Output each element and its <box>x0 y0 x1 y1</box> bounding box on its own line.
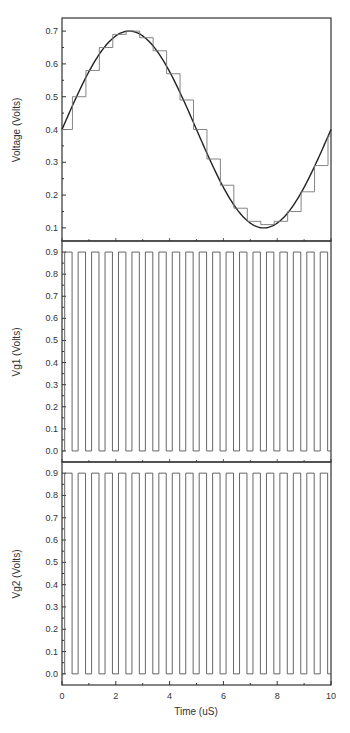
vg2-axis-label: Vg2 (Volts) <box>11 550 22 599</box>
figure: 0.10.20.30.40.50.60.7 0.00.10.20.30.40.5… <box>0 0 350 733</box>
y-tick-label: 0.0 <box>45 669 58 679</box>
y-tick-label: 0.8 <box>45 269 58 279</box>
y-tick-label: 0.3 <box>45 157 58 167</box>
y-tick-label: 0.1 <box>45 647 58 657</box>
voltage-panel: 0.10.20.30.40.50.60.7 <box>45 18 331 241</box>
y-tick-label: 0.1 <box>45 424 58 434</box>
y-tick-label: 0.4 <box>45 358 58 368</box>
y-tick-label: 0.3 <box>45 380 58 390</box>
y-tick-label: 0.6 <box>45 313 58 323</box>
vg2-plot-frame <box>62 462 331 685</box>
y-tick-label: 0.7 <box>45 513 58 523</box>
x-tick-label: 4 <box>167 691 172 701</box>
vg1-pulse-train <box>62 252 331 451</box>
x-tick-label: 10 <box>326 691 336 701</box>
time-axis-label: Time (uS) <box>174 706 218 717</box>
y-tick-label: 0.8 <box>45 490 58 500</box>
vg2-pulse-train <box>62 473 331 674</box>
y-tick-label: 0.2 <box>45 624 58 634</box>
y-tick-label: 0.6 <box>45 535 58 545</box>
x-tick-label: 2 <box>113 691 118 701</box>
y-tick-label: 0.5 <box>45 92 58 102</box>
x-tick-label: 0 <box>59 691 64 701</box>
vg1-plot-frame <box>62 241 331 462</box>
y-tick-label: 0.3 <box>45 602 58 612</box>
y-tick-label: 0.9 <box>45 247 58 257</box>
y-tick-label: 0.7 <box>45 26 58 36</box>
y-tick-label: 0.7 <box>45 291 58 301</box>
y-tick-label: 0.9 <box>45 468 58 478</box>
y-tick-label: 0.5 <box>45 335 58 345</box>
y-tick-label: 0.5 <box>45 557 58 567</box>
x-tick-label: 8 <box>275 691 280 701</box>
y-tick-label: 0.6 <box>45 59 58 69</box>
voltage-axis-label: Voltage (Volts) <box>11 98 22 162</box>
y-tick-label: 0.4 <box>45 580 58 590</box>
y-tick-label: 0.4 <box>45 125 58 135</box>
vg1-axis-label: Vg1 (Volts) <box>11 328 22 377</box>
y-tick-label: 0.2 <box>45 402 58 412</box>
vg1-panel: 0.00.10.20.30.40.50.60.70.80.9 <box>45 241 331 462</box>
y-tick-label: 0.0 <box>45 446 58 456</box>
y-tick-label: 0.2 <box>45 190 58 200</box>
y-tick-label: 0.1 <box>45 223 58 233</box>
vg2-panel: 0.00.10.20.30.40.50.60.70.80.90246810 <box>45 462 336 701</box>
x-tick-label: 6 <box>221 691 226 701</box>
